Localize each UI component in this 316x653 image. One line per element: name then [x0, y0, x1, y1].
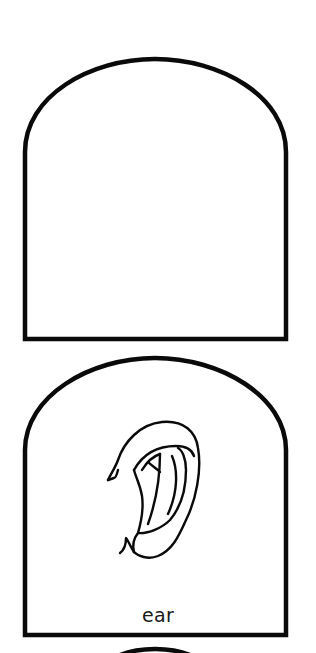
card-outline-icon [0, 0, 316, 653]
next-card-partial [0, 0, 316, 653]
